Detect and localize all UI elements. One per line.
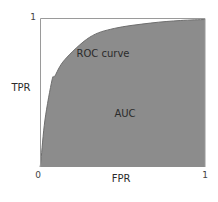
y-tick-max: 1 xyxy=(30,12,36,23)
x-axis-label: FPR xyxy=(112,173,131,184)
roc-curve-label: ROC curve xyxy=(77,48,130,59)
auc-label: AUC xyxy=(114,108,135,119)
x-tick-max: 1 xyxy=(202,170,208,181)
x-tick-min: 0 xyxy=(35,170,41,181)
auc-area xyxy=(40,19,205,167)
roc-chart xyxy=(0,0,218,202)
y-axis-label: TPR xyxy=(11,82,30,93)
